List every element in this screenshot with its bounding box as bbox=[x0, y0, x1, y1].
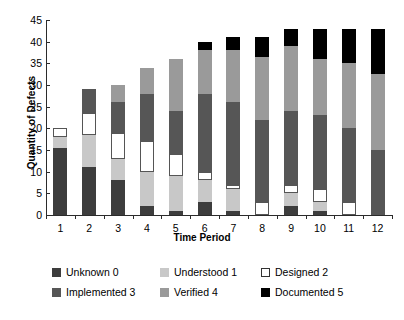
plot-area: Quantity of Defects 051015202530354045 1… bbox=[0, 0, 404, 250]
bar-segment bbox=[284, 111, 298, 185]
legend-item: Implemented 3 bbox=[52, 286, 160, 298]
legend-swatch-icon bbox=[52, 288, 61, 297]
bar-segment bbox=[255, 37, 269, 57]
bar-segment bbox=[284, 46, 298, 111]
bar-segment bbox=[255, 202, 269, 215]
y-tick-mark bbox=[46, 63, 50, 64]
bar-segment bbox=[342, 202, 356, 215]
bar-segment bbox=[226, 189, 240, 211]
bar-segment bbox=[198, 202, 212, 215]
y-tick-mark bbox=[46, 193, 50, 194]
bar-segment bbox=[111, 102, 125, 132]
bar-segment bbox=[111, 180, 125, 215]
bar-stack bbox=[313, 20, 327, 215]
bar-stack bbox=[342, 20, 356, 215]
bar-segment bbox=[284, 29, 298, 46]
bar-segment bbox=[371, 150, 385, 215]
bar-segment bbox=[169, 111, 183, 154]
legend-item: Unknown 0 bbox=[52, 266, 160, 278]
x-tick-mark bbox=[104, 215, 105, 219]
bar-segment bbox=[198, 42, 212, 51]
bar-segment bbox=[226, 37, 240, 50]
bar-segment bbox=[169, 154, 183, 176]
legend-label: Unknown 0 bbox=[66, 266, 119, 278]
bar-segment bbox=[342, 29, 356, 64]
bar-segment bbox=[313, 189, 327, 202]
legend-swatch-icon bbox=[261, 268, 270, 277]
bar-segment bbox=[111, 159, 125, 181]
bar-segment bbox=[226, 50, 240, 102]
bar-segment bbox=[169, 176, 183, 211]
x-tick-mark bbox=[75, 215, 76, 219]
bar-segment bbox=[140, 206, 154, 215]
bar-segment bbox=[140, 141, 154, 171]
legend-item: Designed 2 bbox=[261, 266, 361, 278]
x-tick-mark bbox=[190, 215, 191, 219]
x-tick-mark bbox=[133, 215, 134, 219]
bar-segment bbox=[342, 63, 356, 128]
bar-segment bbox=[140, 172, 154, 207]
bar-segment bbox=[284, 206, 298, 215]
y-tick-mark bbox=[46, 20, 50, 21]
bar-segment bbox=[53, 148, 67, 215]
legend-label: Documented 5 bbox=[275, 286, 343, 298]
bar-segment bbox=[82, 89, 96, 113]
bar-segment bbox=[284, 193, 298, 206]
chart-legend: Unknown 0Understood 1Designed 2Implement… bbox=[52, 262, 352, 302]
bar-stack bbox=[140, 20, 154, 215]
stacked-bar-chart: Quantity of Defects 051015202530354045 1… bbox=[0, 0, 404, 320]
bar-segment bbox=[82, 113, 96, 135]
bar-segment bbox=[313, 115, 327, 189]
x-tick-mark bbox=[277, 215, 278, 219]
legend-swatch-icon bbox=[261, 288, 270, 297]
bar-stack bbox=[111, 20, 125, 215]
bar-segment bbox=[284, 185, 298, 194]
bar-segment bbox=[198, 180, 212, 202]
bar-stack bbox=[53, 20, 67, 215]
x-tick-mark bbox=[219, 215, 220, 219]
bar-segment bbox=[111, 133, 125, 159]
bar-segment bbox=[53, 137, 67, 148]
legend-item: Understood 1 bbox=[160, 266, 261, 278]
bar-segment bbox=[313, 59, 327, 115]
y-tick-mark bbox=[46, 172, 50, 173]
y-tick-mark bbox=[46, 85, 50, 86]
bar-stack bbox=[82, 20, 96, 215]
bar-segment bbox=[53, 128, 67, 137]
bar-stack bbox=[284, 20, 298, 215]
legend-label: Designed 2 bbox=[275, 266, 328, 278]
bar-segment bbox=[313, 29, 327, 59]
bar-segment bbox=[198, 50, 212, 93]
bar-segment bbox=[371, 74, 385, 150]
bars-container bbox=[0, 0, 404, 215]
bar-stack bbox=[255, 20, 269, 215]
bar-segment bbox=[226, 102, 240, 184]
bar-segment bbox=[111, 85, 125, 102]
bar-segment bbox=[198, 94, 212, 172]
y-tick-mark bbox=[46, 215, 50, 216]
legend-label: Understood 1 bbox=[174, 266, 237, 278]
bar-segment bbox=[342, 128, 356, 202]
x-axis-title: Time Period bbox=[0, 232, 404, 243]
bar-segment bbox=[198, 172, 212, 181]
bar-segment bbox=[82, 167, 96, 215]
legend-label: Verified 4 bbox=[174, 286, 218, 298]
y-tick-mark bbox=[46, 128, 50, 129]
bar-stack bbox=[169, 20, 183, 215]
bar-segment bbox=[255, 57, 269, 120]
bar-segment bbox=[371, 29, 385, 75]
legend-swatch-icon bbox=[52, 268, 61, 277]
x-tick-mark bbox=[248, 215, 249, 219]
bar-stack bbox=[226, 20, 240, 215]
x-tick-mark bbox=[363, 215, 364, 219]
bar-segment bbox=[140, 68, 154, 94]
x-tick-mark bbox=[392, 215, 393, 219]
bar-segment bbox=[313, 202, 327, 211]
legend-swatch-icon bbox=[160, 288, 169, 297]
bar-stack bbox=[371, 20, 385, 215]
bar-segment bbox=[255, 120, 269, 202]
x-tick-mark bbox=[161, 215, 162, 219]
bar-segment bbox=[226, 185, 240, 189]
bar-segment bbox=[140, 94, 154, 142]
x-tick-mark bbox=[306, 215, 307, 219]
